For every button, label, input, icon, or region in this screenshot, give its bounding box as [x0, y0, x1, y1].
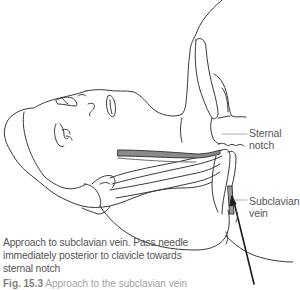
figure-caption-text: Approach to the subclavian vein	[45, 278, 187, 289]
sternal-notch	[218, 143, 244, 146]
sternal-notch-label-line1: Sternal	[249, 127, 282, 139]
approach-description-line1: Approach to subclavian vein. Pass needle	[3, 236, 203, 249]
head-outline	[4, 91, 212, 208]
sternal-notch-label: Sternal notch	[249, 127, 282, 151]
neck-line-3	[110, 164, 220, 190]
throat-curve	[181, 118, 183, 142]
approach-description: Approach to subclavian vein. Pass needle…	[3, 236, 203, 275]
shoulder-outline	[86, 0, 222, 116]
approach-description-line2: immediately posterior to clavicle toward…	[3, 249, 203, 262]
figure-caption: Fig. 15.3 Approach to the subclavian vei…	[3, 278, 187, 290]
approach-description-line3: sternal notch	[3, 262, 203, 275]
subclavian-vein-label-line1: Subclavian	[249, 195, 299, 207]
eye	[56, 97, 77, 106]
shoulder-flap	[195, 38, 218, 118]
mouth	[107, 95, 116, 117]
subclavian-vein-label-line2: vein	[249, 207, 299, 219]
nostril	[88, 103, 95, 116]
sternocleidomastoid-muscle	[118, 150, 220, 158]
sternal-notch-label-line2: notch	[249, 139, 282, 151]
subclavian-vein-label: Subclavian vein	[249, 195, 299, 219]
figure-number: Fig. 15.3	[3, 278, 43, 289]
clavicle	[222, 149, 230, 214]
